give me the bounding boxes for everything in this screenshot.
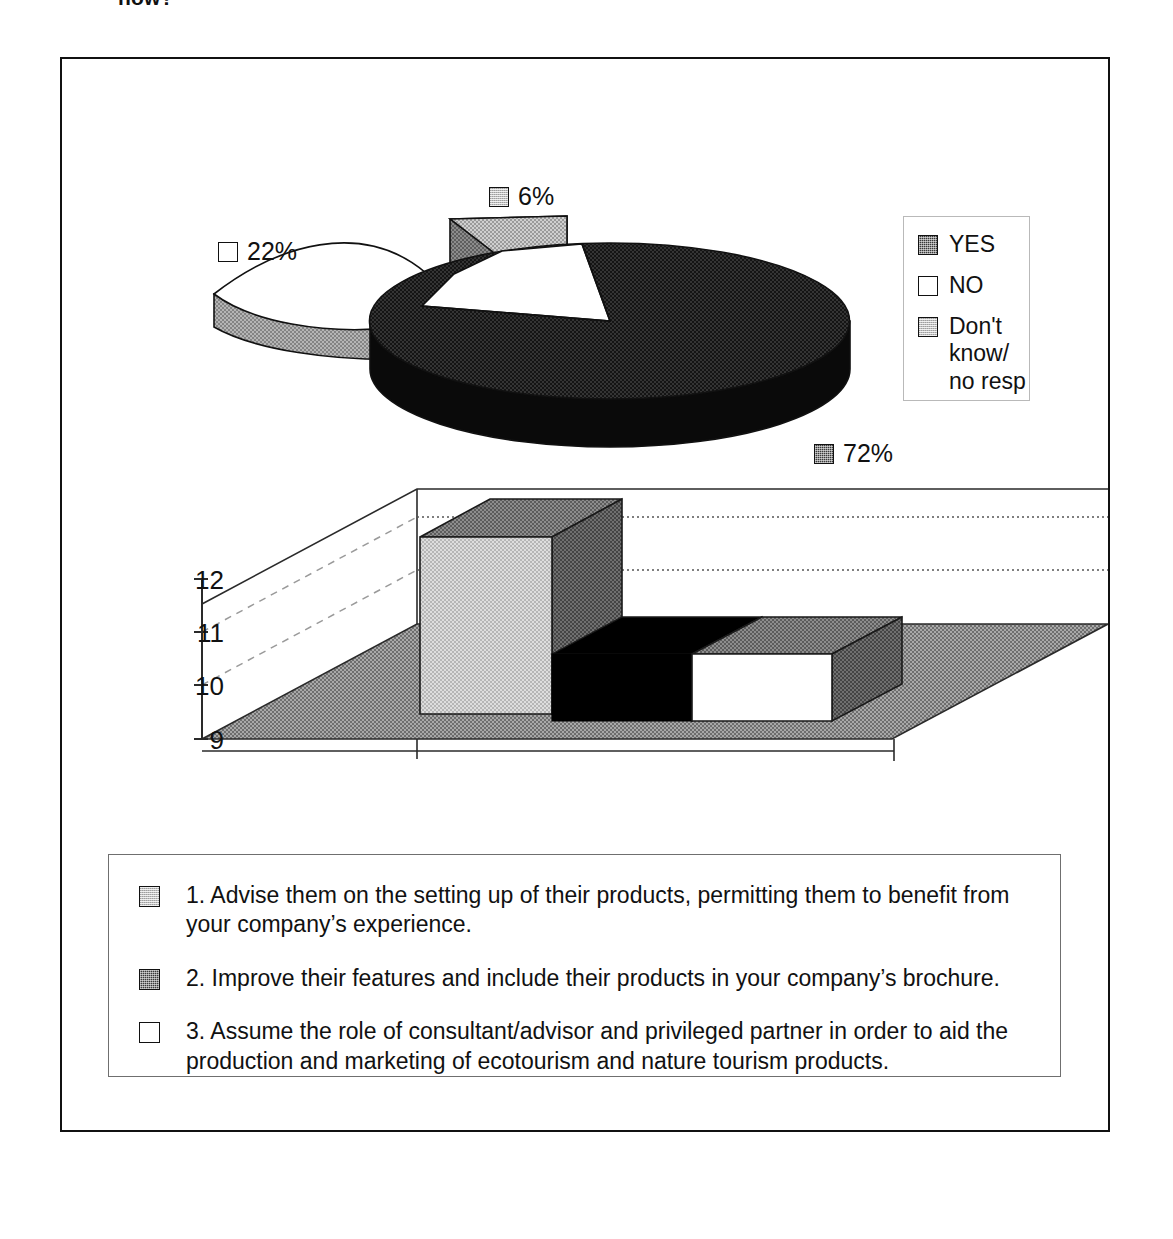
swatch-no-icon: [218, 242, 238, 262]
bar-1-front: [420, 537, 552, 714]
series-legend-box: 1. Advise them on the setting up of thei…: [108, 854, 1061, 1077]
pie-chart: 6% 22% 72% YES NO: [62, 59, 1108, 479]
figure-page: now?: [0, 0, 1173, 1239]
pie-legend-label-dont-know: Don't know/ no resp: [949, 313, 1026, 394]
bar-3-front: [692, 654, 832, 721]
series-swatch-2-icon: [139, 969, 160, 990]
pie-legend-item-dont-know: Don't know/ no resp: [918, 313, 1029, 394]
pie-legend-label-yes: YES: [949, 231, 995, 258]
pie-legend-item-yes: YES: [918, 231, 1029, 258]
axis-label-10: 10: [178, 673, 224, 699]
series-legend-text-3: 3. Assume the role of consultant/advisor…: [186, 1017, 1026, 1076]
bar-chart: 12 11 10 9: [62, 469, 1108, 854]
series-legend-text-2: 2. Improve their features and include th…: [186, 964, 1000, 993]
pie-label-no-value: 22%: [247, 239, 297, 264]
legend-swatch-dont-know-icon: [918, 317, 938, 337]
axis-label-11: 11: [178, 620, 224, 646]
pie-legend-item-no: NO: [918, 272, 1029, 299]
pie-legend: YES NO Don't know/ no resp: [903, 216, 1030, 401]
swatch-yes-icon: [814, 444, 834, 464]
pie-legend-label-no: NO: [949, 272, 984, 299]
top-caption: now?: [118, 0, 518, 8]
axis-label-9: 9: [178, 727, 224, 753]
bar-chart-svg: [62, 469, 1108, 854]
bar-2-front: [552, 654, 692, 721]
series-swatch-1-icon: [139, 886, 160, 907]
series-legend-item-2: 2. Improve their features and include th…: [139, 964, 1034, 993]
pie-label-yes: 72%: [814, 441, 893, 466]
series-legend-item-3: 3. Assume the role of consultant/advisor…: [139, 1017, 1034, 1076]
figure-outer-frame: 6% 22% 72% YES NO: [60, 57, 1110, 1132]
pie-label-no: 22%: [218, 239, 297, 264]
pie-label-dont-know: 6%: [489, 184, 554, 209]
swatch-dont-know-icon: [489, 187, 509, 207]
legend-swatch-no-icon: [918, 276, 938, 296]
series-legend-text-1: 1. Advise them on the setting up of thei…: [186, 881, 1026, 940]
pie-label-yes-value: 72%: [843, 441, 893, 466]
legend-swatch-yes-icon: [918, 235, 938, 255]
series-swatch-3-icon: [139, 1022, 160, 1043]
series-legend-item-1: 1. Advise them on the setting up of thei…: [139, 881, 1034, 940]
axis-label-12: 12: [178, 567, 224, 593]
pie-label-dont-know-value: 6%: [518, 184, 554, 209]
